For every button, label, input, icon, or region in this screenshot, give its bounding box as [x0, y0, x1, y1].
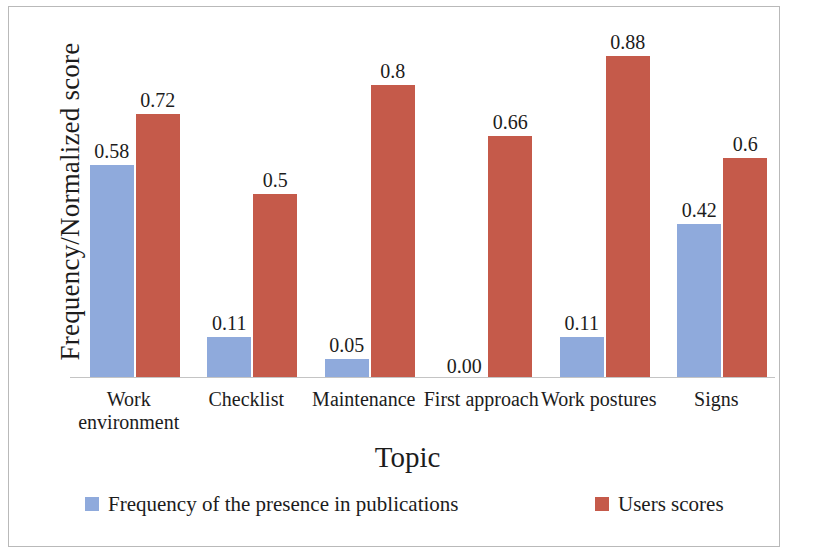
x-tick-label-line: environment	[56, 411, 202, 434]
x-axis-tick-labels: WorkenvironmentChecklistMaintenanceFirst…	[70, 388, 775, 446]
bar-group: 0.110.88	[560, 19, 650, 377]
bar-value-label: 0.72	[140, 90, 175, 110]
legend-entry[interactable]: Users scores	[595, 492, 724, 516]
bar-group: 0.050.8	[325, 19, 415, 377]
legend-swatch-icon	[85, 497, 99, 511]
x-axis-baseline	[70, 377, 775, 378]
legend-label: Frequency of the presence in publication…	[108, 492, 458, 516]
bar-rect	[207, 337, 251, 377]
bar-value-label: 0.00	[447, 356, 482, 376]
bar-group: 0.110.5	[207, 19, 297, 377]
bar-value-label: 0.05	[329, 335, 364, 355]
bar-frequency[interactable]: 0.42	[677, 224, 721, 377]
bar-value-label: 0.58	[94, 141, 129, 161]
bar-group: 0.000.66	[442, 19, 532, 377]
bar-value-label: 0.11	[565, 313, 599, 333]
bar-rect	[677, 224, 721, 377]
bar-value-label: 0.11	[212, 313, 246, 333]
legend-swatch-icon	[595, 497, 609, 511]
bar-group: 0.580.72	[90, 19, 180, 377]
legend-entry[interactable]: Frequency of the presence in publication…	[85, 492, 458, 516]
bar-rect	[606, 56, 650, 377]
chart-legend: Frequency of the presence in publication…	[0, 492, 815, 528]
bar-value-label: 0.88	[610, 32, 645, 52]
bar-users-score[interactable]: 0.5	[253, 194, 297, 377]
bar-value-label: 0.5	[263, 170, 288, 190]
bar-users-score[interactable]: 0.88	[606, 56, 650, 377]
bar-value-label: 0.8	[380, 61, 405, 81]
bar-frequency[interactable]: 0.05	[325, 359, 369, 377]
bar-group: 0.420.6	[677, 19, 767, 377]
bar-chart-figure: Frequency/Normalized score 0.580.720.110…	[0, 0, 815, 553]
bar-rect	[371, 85, 415, 377]
bar-rect	[560, 337, 604, 377]
bar-frequency[interactable]: 0.58	[90, 165, 134, 377]
bar-users-score[interactable]: 0.66	[488, 136, 532, 377]
bar-frequency[interactable]: 0.11	[207, 337, 251, 377]
bar-value-label: 0.42	[682, 200, 717, 220]
bar-value-label: 0.66	[493, 112, 528, 132]
x-axis-title: Topic	[0, 441, 815, 474]
bar-rect	[723, 158, 767, 377]
bar-users-score[interactable]: 0.72	[136, 114, 180, 377]
bar-rect	[325, 359, 369, 377]
bar-users-score[interactable]: 0.8	[371, 85, 415, 377]
bar-users-score[interactable]: 0.6	[723, 158, 767, 377]
bar-rect	[253, 194, 297, 377]
x-tick-label-line: Signs	[644, 388, 790, 411]
bar-rect	[90, 165, 134, 377]
bar-frequency[interactable]: 0.11	[560, 337, 604, 377]
bar-rect	[136, 114, 180, 377]
plot-area: 0.580.720.110.50.050.80.000.660.110.880.…	[70, 20, 775, 378]
bar-rect	[488, 136, 532, 377]
bar-value-label: 0.6	[733, 134, 758, 154]
legend-label: Users scores	[618, 492, 724, 516]
x-tick-label: Signs	[644, 388, 790, 411]
